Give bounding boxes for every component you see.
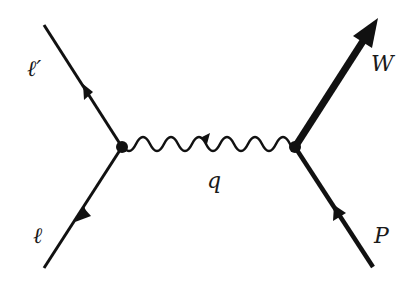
w-boson-arrow-icon [353,18,378,48]
lepton-in-label: ℓ [33,225,42,247]
feynman-diagram: ℓ′ ℓ q W P [0,0,418,286]
left-vertex [116,141,128,153]
w-boson-label: W [371,53,394,75]
lepton-out-label: ℓ′ [27,58,41,80]
diagram-graphics [0,0,418,286]
photon-label: q [207,170,221,192]
hadron-label: P [374,225,389,247]
photon-wavy-line [122,137,295,151]
w-boson-line [295,38,365,147]
lepton-out-line [44,25,122,147]
